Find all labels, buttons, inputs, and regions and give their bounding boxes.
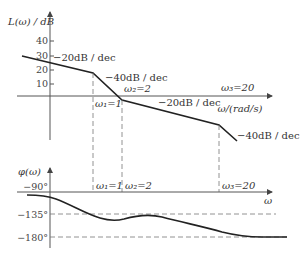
- slope-label-2: −40dB / dec: [105, 72, 168, 83]
- phase-corner-label-w3: ω₃=20: [222, 180, 256, 191]
- corner-label-w3: ω₃=20: [221, 82, 255, 93]
- corner-label-w2: ω₂=2: [124, 83, 151, 94]
- tick-minus-180: −180°: [17, 232, 48, 243]
- phase-curve: [27, 195, 287, 237]
- tick-40: 40: [36, 35, 48, 46]
- tick-10: 10: [36, 78, 48, 89]
- phase-corner-label-w2: ω₂=2: [125, 180, 152, 191]
- magnitude-x-axis-label: ω/(rad/s): [218, 103, 263, 114]
- slope-label-4: −40dB / dec: [237, 130, 300, 141]
- tick-20: 20: [36, 64, 48, 75]
- magnitude-plot: L(ω) / dB ω/(rad/s) 40 30 20 10 −20dB / …: [7, 12, 300, 141]
- tick-minus-135: −135°: [17, 209, 48, 220]
- slope-label-1: −20dB / dec: [53, 52, 116, 63]
- corner-label-w1: ω₁=1: [95, 98, 122, 109]
- bode-diagram: L(ω) / dB ω/(rad/s) 40 30 20 10 −20dB / …: [0, 0, 304, 262]
- phase-x-axis-label: ω: [264, 195, 272, 206]
- phase-plot: φ(ω) ω −90° −135° −180° ω₁=1 ω₂=2 ω₃=20: [17, 166, 290, 248]
- magnitude-y-axis-label: L(ω) / dB: [7, 16, 54, 27]
- phase-y-axis-label: φ(ω): [18, 166, 41, 177]
- phase-corner-label-w1: ω₁=1: [96, 180, 123, 191]
- tick-minus-90: −90°: [23, 181, 48, 192]
- slope-label-3: −20dB / dec: [158, 97, 221, 108]
